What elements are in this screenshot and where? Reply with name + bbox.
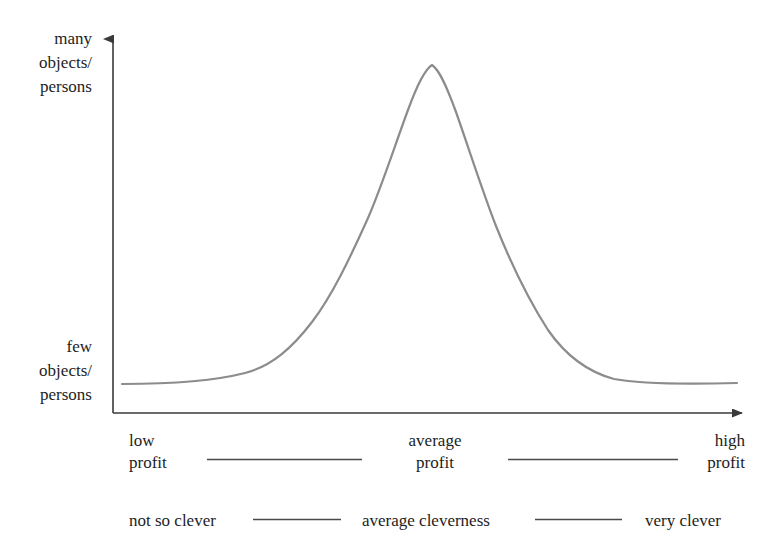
x-axis-label-low-profit: low profit: [129, 430, 167, 474]
x-axis-label-high-profit: high profit: [655, 430, 745, 474]
legend-item-very-clever: very clever: [645, 510, 721, 532]
cleverness-legend: not so clever average cleverness very cl…: [0, 508, 770, 536]
legend-item-average-cleverness: average cleverness: [362, 510, 490, 532]
legend-item-not-so-clever: not so clever: [129, 510, 216, 532]
x-axis-label-average-profit: average profit: [383, 430, 487, 474]
diagram-canvas: many objects/ persons few objects/ perso…: [0, 0, 770, 550]
bell-curve-path: [122, 65, 737, 384]
